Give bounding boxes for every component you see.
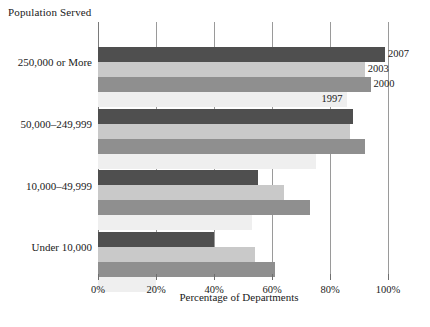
bar-2000-0 [98,77,371,92]
plot-area: 2007200320001997 0%20%40%60%80%100% [98,22,388,274]
bar-2007-2 [98,170,258,185]
bar-2000-3 [98,262,275,277]
bar-1997-2 [98,215,252,230]
tick-60 [272,274,273,280]
bar-2003-3 [98,247,255,262]
bar-1997-1 [98,154,316,169]
tick-40 [214,274,215,280]
category-label-50000-249999: 50,000–249,999 [0,118,92,130]
gridline-100 [388,22,389,274]
bar-2003-0 [98,62,365,77]
category-label-under-10000: Under 10,000 [0,241,92,253]
bar-2007-0 [98,47,385,62]
bar-2000-1 [98,139,365,154]
series-annotation-2007: 2007 [388,48,409,59]
series-annotation-2000: 2000 [374,78,395,89]
bar-2007-3 [98,232,214,247]
bar-2003-2 [98,185,284,200]
bar-1997-0 [98,92,347,107]
tick-100 [388,274,389,280]
y-axis-title: Population Served [8,6,92,18]
tick-20 [156,274,157,280]
category-label-250000-or-more: 250,000 or More [0,56,92,68]
bar-2003-1 [98,124,350,139]
bar-2007-1 [98,109,353,124]
bar-chart: Population Served 250,000 or More 50,000… [0,0,430,327]
category-label-10000-49999: 10,000–49,999 [0,180,92,192]
x-axis-caption-text: Percentage of Departments [179,291,298,303]
bar-2000-2 [98,200,310,215]
tick-0 [98,274,99,280]
series-annotation-1997: 1997 [321,93,342,104]
series-annotation-2003: 2003 [368,63,389,74]
x-axis-caption: Percentage of Departments [0,291,430,303]
tick-80 [330,274,331,280]
